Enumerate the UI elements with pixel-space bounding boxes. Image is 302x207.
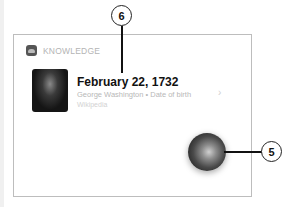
result-source: Wikipedia bbox=[77, 101, 107, 108]
page-edge bbox=[0, 0, 4, 207]
chevron-right-icon[interactable]: › bbox=[218, 87, 221, 98]
result-title[interactable]: February 22, 1732 bbox=[77, 75, 178, 89]
result-subtitle: George Washington • Date of birth bbox=[77, 90, 191, 99]
callout-6: 6 bbox=[111, 5, 132, 26]
callout-5-line bbox=[224, 151, 262, 153]
portrait-thumbnail bbox=[32, 69, 68, 112]
section-label: KNOWLEDGE bbox=[43, 46, 100, 56]
siri-button[interactable] bbox=[188, 133, 226, 171]
callout-6-line bbox=[121, 26, 123, 73]
callout-5: 5 bbox=[261, 141, 282, 162]
siri-knowledge-card: KNOWLEDGE February 22, 1732 George Washi… bbox=[13, 34, 252, 197]
section-header: KNOWLEDGE bbox=[26, 45, 100, 56]
knowledge-app-icon bbox=[26, 45, 37, 56]
